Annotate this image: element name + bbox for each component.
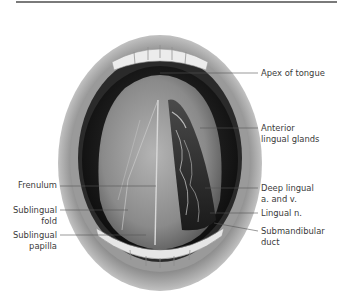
label-submandibular-duct: Submandibular duct — [261, 226, 325, 247]
label-lingual-nerve: Lingual n. — [261, 208, 302, 219]
label-line: Anterior — [261, 123, 319, 134]
label-line: Frenulum — [18, 180, 57, 191]
label-sublingual-papilla: Sublingual papilla — [13, 230, 57, 251]
label-line: Lingual n. — [261, 208, 302, 219]
label-line: Submandibular — [261, 226, 325, 237]
label-deep-lingual-av: Deep lingual a. and v. — [261, 183, 314, 204]
label-sublingual-fold: Sublingual fold — [13, 205, 57, 226]
label-line: papilla — [13, 241, 57, 252]
label-frenulum: Frenulum — [18, 180, 57, 191]
label-line: duct — [261, 237, 325, 248]
label-apex-of-tongue: Apex of tongue — [261, 68, 325, 79]
label-line: Sublingual — [13, 205, 57, 216]
label-line: Deep lingual — [261, 183, 314, 194]
label-line: fold — [13, 216, 57, 227]
label-line: a. and v. — [261, 194, 314, 205]
tongue-underside — [98, 75, 221, 250]
label-line: Apex of tongue — [261, 68, 325, 79]
label-anterior-lingual-glands: Anterior lingual glands — [261, 123, 319, 144]
label-line: lingual glands — [261, 134, 319, 145]
label-line: Sublingual — [13, 230, 57, 241]
